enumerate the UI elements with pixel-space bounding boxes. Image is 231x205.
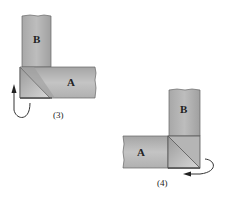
label-b: B xyxy=(180,103,188,115)
label-a: A xyxy=(137,146,145,158)
binding-fold-diagram: B A (3) B A (4) xyxy=(0,0,231,205)
strip-a xyxy=(123,136,169,168)
figure-step-3: B A (3) xyxy=(12,15,97,120)
caption-step-4: (4) xyxy=(157,178,168,188)
label-b: B xyxy=(33,33,41,45)
label-a: A xyxy=(67,76,75,88)
caption-step-3: (3) xyxy=(53,110,64,120)
figure-step-4: B A (4) xyxy=(123,89,213,188)
